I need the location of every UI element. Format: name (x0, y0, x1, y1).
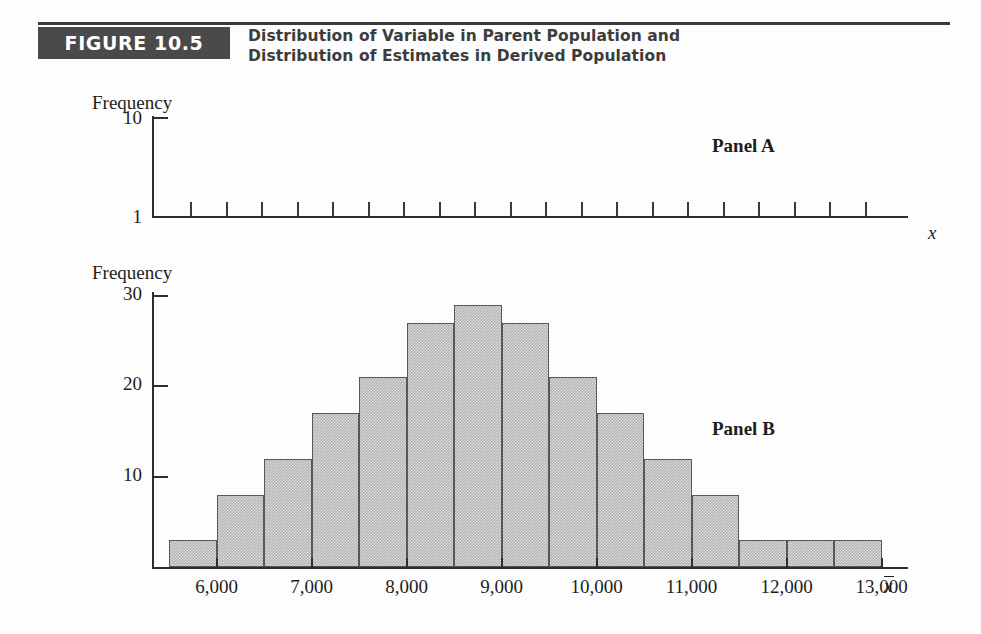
panel-b-x-tickmark-13000 (881, 558, 883, 567)
panel-b-y-axis-line (152, 292, 154, 569)
panel-b-bar (692, 495, 740, 567)
panel-b-x-tickmark-7000 (311, 558, 313, 567)
panel-b-bar (264, 459, 312, 567)
panel-b-y-tick-label-20: 20 (94, 373, 142, 395)
panel-b-bar (549, 377, 597, 567)
panel-b-y-tickmark-10 (154, 476, 168, 478)
panel-b: Frequency 102030 6,0007,0008,0009,00010,… (0, 0, 981, 634)
panel-b-x-tickmark-10000 (596, 558, 598, 567)
panel-b-bar (597, 413, 645, 567)
panel-b-x-tick-label-8000: 8,000 (362, 576, 452, 598)
panel-b-label: Panel B (712, 418, 775, 440)
panel-b-x-tickmark-9000 (501, 558, 503, 567)
panel-b-x-tick-label-7000: 7,000 (267, 576, 357, 598)
panel-b-y-tickmark-30 (154, 295, 168, 297)
panel-b-bar (502, 323, 550, 567)
panel-b-x-tick-label-11000: 11,000 (647, 576, 737, 598)
x-bar-letter: x (884, 575, 892, 596)
panel-b-bar (407, 323, 455, 567)
panel-b-x-tick-label-9000: 9,000 (457, 576, 547, 598)
panel-b-y-tick-label-10: 10 (94, 464, 142, 486)
panel-b-x-tickmark-6000 (216, 558, 218, 567)
panel-b-x-axis-line (152, 567, 908, 569)
figure-container: FIGURE 10.5 Distribution of Variable in … (0, 0, 981, 634)
panel-b-x-tickmark-11000 (691, 558, 693, 567)
panel-b-x-tick-label-13000: 13,000 (837, 576, 927, 598)
panel-b-bar (787, 540, 835, 567)
panel-b-x-tick-label-6000: 6,000 (172, 576, 262, 598)
panel-b-x-tickmark-12000 (786, 558, 788, 567)
panel-b-bar (359, 377, 407, 567)
panel-b-x-tick-label-10000: 10,000 (552, 576, 642, 598)
panel-b-bar (454, 305, 502, 567)
panel-b-x-axis-title: x (884, 576, 894, 597)
panel-b-bar (739, 540, 787, 567)
panel-b-bar (217, 495, 265, 567)
panel-b-y-axis-title: Frequency (92, 262, 172, 284)
panel-b-bar (312, 413, 360, 567)
panel-b-bar (834, 540, 882, 567)
panel-b-x-tick-label-12000: 12,000 (742, 576, 832, 598)
panel-b-bar (644, 459, 692, 567)
panel-b-bar (169, 540, 217, 567)
panel-b-y-tickmark-20 (154, 385, 168, 387)
panel-b-y-tick-label-30: 30 (94, 283, 142, 305)
panel-b-x-tickmark-8000 (406, 558, 408, 567)
